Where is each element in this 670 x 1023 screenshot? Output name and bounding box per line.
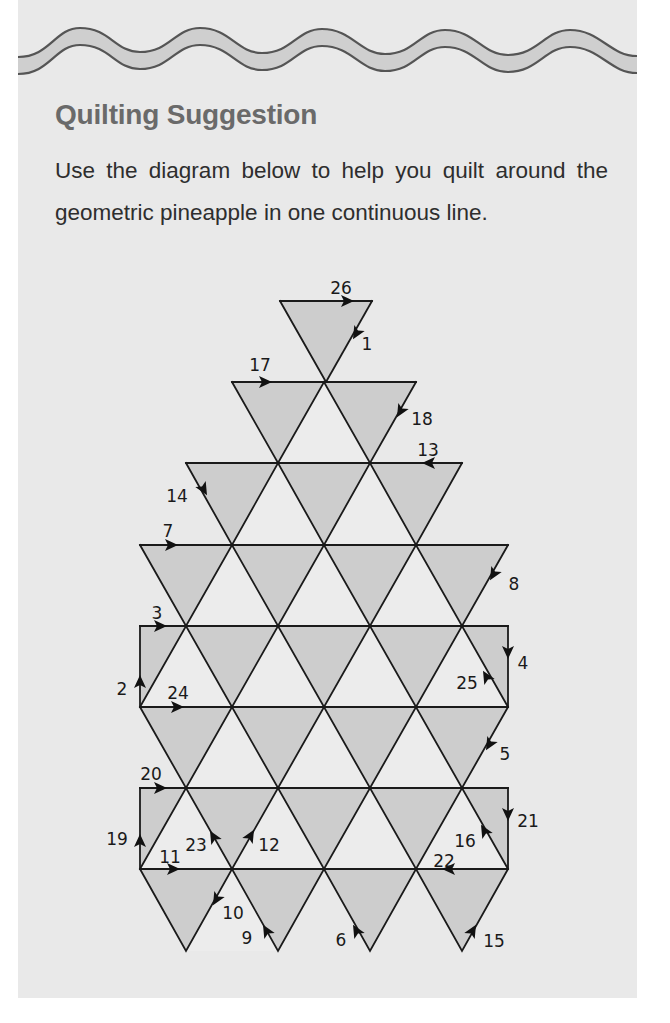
step-label: 14 — [166, 486, 188, 506]
step-label: 15 — [483, 931, 505, 951]
step-label: 7 — [163, 521, 174, 541]
step-label: 24 — [167, 683, 189, 703]
shaded-triangle — [280, 301, 372, 382]
step-label: 5 — [500, 744, 511, 764]
step-label: 2 — [117, 679, 128, 699]
step-label: 17 — [249, 355, 271, 375]
pineapple-quilting-diagram: 1234567891011121314151617181920212223242… — [0, 0, 670, 1023]
step-label: 13 — [417, 440, 439, 460]
step-label: 11 — [159, 847, 181, 867]
step-label: 1 — [362, 334, 373, 354]
step-label: 21 — [517, 811, 539, 831]
step-label: 8 — [509, 574, 520, 594]
step-label: 12 — [258, 835, 280, 855]
step-label: 23 — [185, 835, 207, 855]
step-label: 16 — [454, 831, 476, 851]
step-label: 26 — [330, 278, 352, 298]
step-label: 4 — [518, 653, 529, 673]
step-label: 18 — [411, 409, 433, 429]
step-label: 3 — [152, 603, 163, 623]
step-label: 22 — [433, 851, 455, 871]
step-label: 20 — [140, 764, 162, 784]
step-label: 25 — [456, 673, 478, 693]
step-label: 6 — [336, 930, 347, 950]
step-label: 19 — [106, 829, 128, 849]
step-label: 9 — [242, 928, 253, 948]
step-label: 10 — [222, 903, 244, 923]
